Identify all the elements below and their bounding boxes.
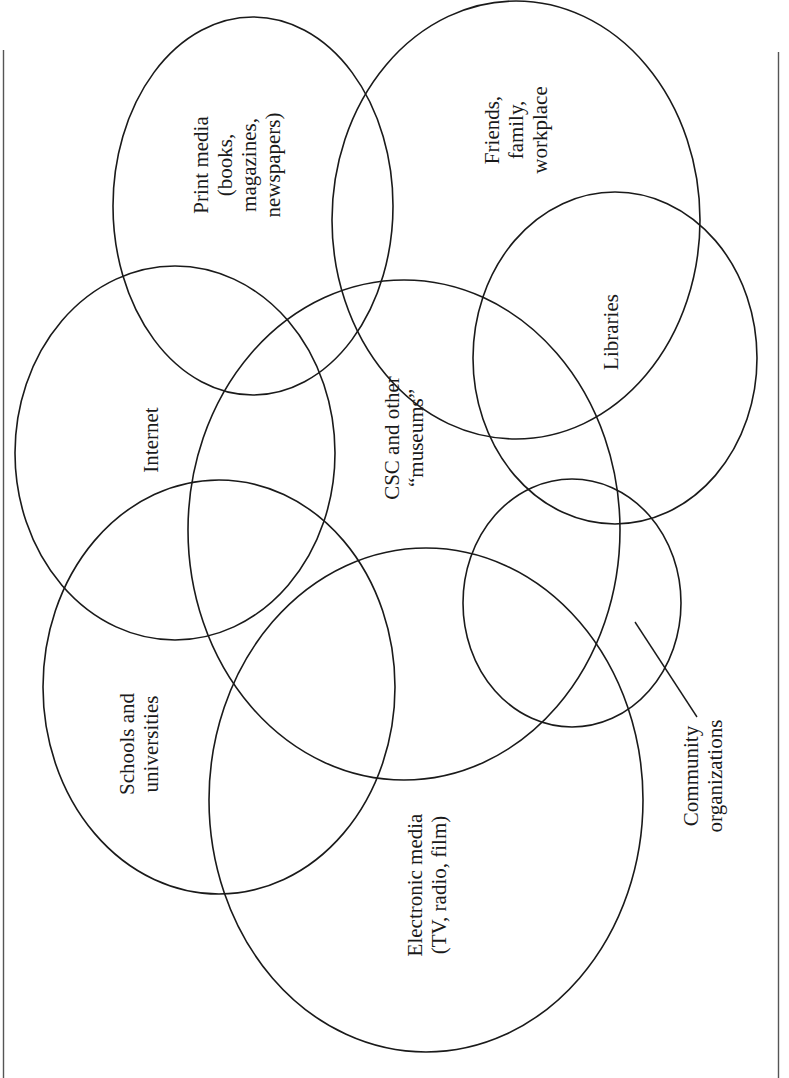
ellipse-schools-universities [43,480,395,894]
label-schools-line2: universities [139,696,163,793]
label-friends-line3: workplace [528,86,552,173]
label-print-media-line4: newspapers) [261,113,285,218]
label-schools-universities: Schools and universities [115,692,163,795]
label-csc-museums: CSC and other “museums” [380,376,428,500]
label-electronic-line2: (TV, radio, film) [427,816,451,954]
community-leader-line [635,622,697,717]
label-friends-line2: family, [504,101,528,160]
label-internet-line1: Internet [139,407,163,472]
venn-diagram: Print media (books, magazines, newspaper… [0,0,789,1078]
label-electronic-line1: Electronic media [403,813,427,957]
ellipse-electronic-media [209,548,643,1052]
label-community-line2: organizations [703,720,727,833]
label-schools-line1: Schools and [115,692,139,795]
label-friends-family-workplace: Friends, family, workplace [480,86,552,173]
label-print-media-line1: Print media [189,116,213,214]
label-community-organizations: Community organizations [679,720,727,833]
ellipse-csc-museums [188,280,620,780]
label-print-media-line3: magazines, [237,118,261,212]
label-electronic-media: Electronic media (TV, radio, film) [403,813,451,957]
label-internet: Internet [139,407,163,472]
label-print-media: Print media (books, magazines, newspaper… [189,113,285,218]
label-print-media-line2: (books, [213,134,237,196]
ellipse-friends-family-workplace [332,1,700,439]
label-csc-line2: “museums” [404,389,428,487]
label-csc-line1: CSC and other [380,376,404,500]
label-friends-line1: Friends, [480,96,504,164]
label-libraries: Libraries [599,294,623,370]
ellipse-internet [15,266,335,640]
label-community-line1: Community [679,725,703,826]
label-libraries-line1: Libraries [599,294,623,370]
